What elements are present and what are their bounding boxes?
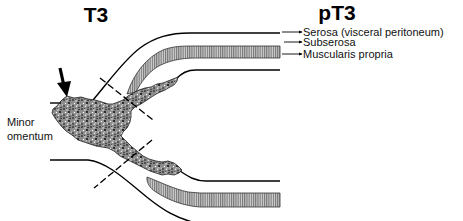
upper-bowel-wall: [93, 33, 280, 100]
upper-mucosa-line: [176, 70, 280, 79]
down-arrow-icon: [57, 68, 71, 97]
pt3-title: pT3: [318, 1, 355, 24]
minor-omentum-label: Minor omentum: [7, 116, 53, 142]
lower-mucosa-line: [180, 171, 280, 181]
subserosa-label: Subserosa: [303, 36, 356, 48]
t3-title: T3: [84, 3, 109, 26]
muscularis-propria-label: Muscularis propria: [303, 48, 394, 60]
minor-omentum-line2: omentum: [7, 130, 53, 142]
layer-legend: Serosa (visceral peritoneum) Subserosa M…: [282, 26, 444, 60]
tumor-staging-diagram: T3 pT3 Serosa (visceral peritoneum) Subs…: [0, 0, 463, 221]
upper-serosa-line: [93, 33, 280, 100]
minor-omentum-line1: Minor: [7, 116, 35, 128]
